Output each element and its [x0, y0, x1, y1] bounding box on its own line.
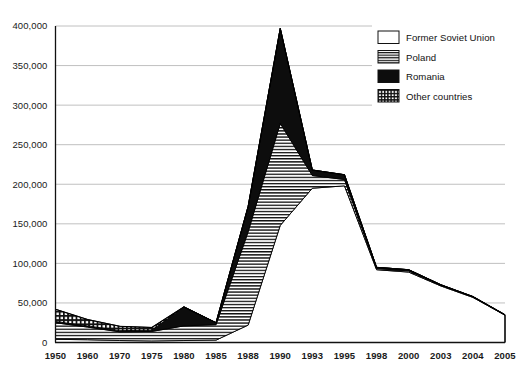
x-tick-label: 2000: [398, 350, 420, 361]
legend-swatch-other-countries: [378, 90, 399, 103]
x-tick-label: 1950: [45, 350, 67, 361]
y-tick-label: 150,000: [12, 218, 47, 229]
x-tick-label: 1990: [269, 350, 291, 361]
x-tick-label: 1970: [109, 350, 131, 361]
y-tick-label: 400,000: [12, 20, 47, 31]
x-tick-label: 1993: [302, 350, 324, 361]
y-tick-label: 0: [42, 337, 47, 348]
stacked-area-chart: 050,000100,000150,000200,000250,000300,0…: [0, 0, 519, 379]
x-tick-label: 2004: [462, 350, 484, 361]
x-tick-label: 1960: [77, 350, 99, 361]
legend-label-romania: Romania: [406, 71, 445, 82]
chart-canvas: 050,000100,000150,000200,000250,000300,0…: [0, 0, 519, 379]
y-tick-label: 100,000: [12, 258, 47, 269]
legend-label-poland: Poland: [406, 52, 436, 63]
x-tick-label: 2005: [494, 350, 516, 361]
chart-legend: Former Soviet UnionPolandRomaniaOther co…: [372, 25, 505, 107]
y-axis-tick-labels: 050,000100,000150,000200,000250,000300,0…: [12, 20, 47, 348]
x-tick-label: 1985: [205, 350, 227, 361]
x-tick-label: 1988: [237, 350, 259, 361]
legend-swatch-former-soviet-union: [378, 31, 399, 44]
y-tick-label: 200,000: [12, 179, 47, 190]
legend-swatch-poland: [378, 51, 399, 64]
legend-label-former-soviet-union: Former Soviet Union: [406, 32, 495, 43]
y-tick-label: 300,000: [12, 100, 47, 111]
legend-label-other-countries: Other countries: [406, 91, 472, 102]
y-tick-label: 350,000: [12, 60, 47, 71]
legend-swatch-romania: [378, 70, 399, 83]
x-tick-label: 1975: [141, 350, 163, 361]
x-axis-tick-labels: 1950196019701975198019851988199019931995…: [45, 350, 517, 361]
y-tick-label: 250,000: [12, 139, 47, 150]
x-tick-label: 2003: [430, 350, 452, 361]
y-tick-label: 50,000: [18, 297, 48, 308]
x-tick-label: 1980: [173, 350, 195, 361]
x-tick-label: 1998: [366, 350, 388, 361]
x-tick-label: 1995: [334, 350, 356, 361]
